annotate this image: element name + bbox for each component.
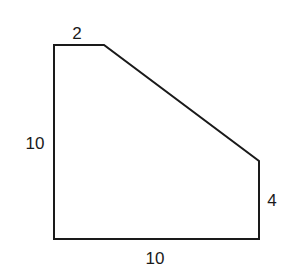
- label-top-edge: 2: [72, 24, 81, 43]
- label-left-edge: 10: [26, 134, 45, 153]
- label-right-edge: 4: [267, 191, 276, 210]
- label-bottom-edge: 10: [146, 249, 165, 268]
- pentagon-shape: [54, 45, 259, 239]
- pentagon-diagram: 2 10 4 10: [0, 0, 291, 279]
